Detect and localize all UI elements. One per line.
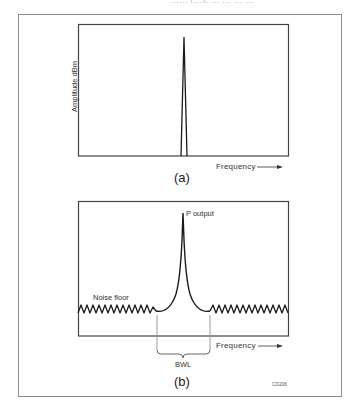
figure-b-arrow-head-icon bbox=[277, 344, 283, 348]
peak-with-skirts bbox=[156, 213, 210, 311]
noise-floor-label: Noise floor bbox=[93, 293, 129, 302]
figure-a-plot bbox=[79, 25, 289, 170]
spectrum-diagram bbox=[0, 0, 354, 404]
figure-a-y-axis-label: Amplitude dBm bbox=[70, 59, 79, 115]
bwl-brace-icon bbox=[157, 350, 210, 358]
figure-a-arrow-head-icon bbox=[277, 165, 283, 169]
figure-b-x-axis-label: Frequency bbox=[216, 341, 256, 350]
noise-floor-left bbox=[78, 305, 156, 313]
figure-a-caption: (a) bbox=[174, 170, 190, 185]
noise-floor-right bbox=[210, 305, 288, 313]
figure-a-x-axis-label: Frequency bbox=[216, 162, 256, 171]
figure-b-plot bbox=[78, 202, 289, 359]
bwl-label: BWL bbox=[175, 360, 191, 369]
figure-id-label: CD208 bbox=[272, 382, 287, 387]
peak-label: P output bbox=[186, 209, 214, 218]
figure-a-spectral-line bbox=[181, 37, 187, 156]
figure-b-caption: (b) bbox=[174, 374, 190, 389]
